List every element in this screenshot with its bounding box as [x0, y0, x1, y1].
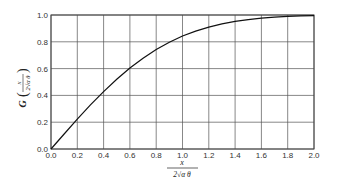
y-tick-label: 0.6 [37, 65, 49, 74]
x-tick-label: 1.8 [282, 151, 294, 160]
y-tick-label: 0.4 [37, 91, 49, 100]
x-tick-label: 0.4 [98, 151, 110, 160]
y-label-numerator: x [15, 81, 23, 86]
y-tick-label: 1.0 [37, 11, 49, 20]
y-label-function: G [17, 100, 28, 108]
svg-text:(: ( [15, 92, 31, 97]
y-axis-ticks: 0.00.20.40.60.81.0 [37, 11, 49, 154]
y-tick-label: 0.2 [37, 118, 49, 127]
x-tick-label: 0.2 [72, 151, 84, 160]
x-tick-label: 1.6 [256, 151, 268, 160]
y-tick-label: 0.8 [37, 38, 49, 47]
x-tick-label: 1.2 [203, 151, 215, 160]
x-tick-label: 2.0 [308, 151, 320, 160]
svg-text:): ) [15, 68, 31, 73]
x-tick-label: 0.6 [124, 151, 136, 160]
x-label-numerator: x [179, 158, 184, 167]
y-label-denominator: 2√α θ [24, 75, 31, 91]
x-axis-label: x 2√α θ [167, 158, 198, 179]
grid-lines [51, 15, 314, 149]
x-tick-label: 0.8 [151, 151, 163, 160]
y-tick-label: 0.0 [37, 145, 49, 154]
x-label-denominator: 2√α θ [173, 170, 191, 179]
chart: 0.00.20.40.60.81.01.21.41.61.82.0 0.00.2… [0, 0, 338, 186]
x-tick-label: 1.4 [230, 151, 242, 160]
y-axis-label: G ( x 2√α θ ) [15, 68, 31, 108]
